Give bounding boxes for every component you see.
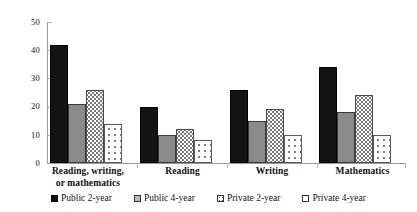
- bar: [373, 135, 391, 163]
- x-axis-label-group-0: Reading, writing, or mathematics: [38, 166, 138, 189]
- bar: [158, 135, 176, 163]
- x-axis-label-group-1: Reading: [135, 166, 230, 178]
- bar-group: [319, 22, 391, 163]
- x-axis-label-line: or mathematics: [38, 178, 138, 190]
- legend-item-private-2-year: Private 2-year: [217, 193, 281, 203]
- bar: [50, 45, 68, 163]
- legend-swatch-icon: [217, 195, 224, 202]
- bar-group: [230, 22, 302, 163]
- bar: [140, 107, 158, 163]
- y-tick-label-40: 40: [14, 45, 40, 55]
- bar: [176, 129, 194, 163]
- legend-label: Private 4-year: [312, 193, 366, 203]
- y-tick-label-30: 30: [14, 73, 40, 83]
- bar: [284, 135, 302, 163]
- y-tick-label-10: 10: [14, 130, 40, 140]
- x-axis-label-line: Mathematics: [315, 166, 410, 178]
- y-tick-label-50: 50: [14, 17, 40, 27]
- legend-swatch-icon: [51, 195, 58, 202]
- bar-group: [140, 22, 212, 163]
- y-tick-label-0: 0: [14, 158, 40, 168]
- x-axis-label-group-2: Writing: [226, 166, 318, 178]
- bar-chart: 50 40 30 20 10 0 Reading, writing, or ma…: [0, 0, 417, 212]
- bar: [248, 121, 266, 163]
- bar: [266, 109, 284, 163]
- plot-area: [47, 22, 405, 163]
- legend-item-public-4-year: Public 4-year: [134, 193, 195, 203]
- x-axis-label-line: Reading: [135, 166, 230, 178]
- bar: [355, 95, 373, 163]
- legend-item-public-2-year: Public 2-year: [51, 193, 112, 203]
- bar: [319, 67, 337, 163]
- y-tick-label-20: 20: [14, 101, 40, 111]
- x-axis-label-line: Writing: [226, 166, 318, 178]
- bar-group: [50, 22, 122, 163]
- legend-label: Public 4-year: [144, 193, 195, 203]
- x-axis-label-line: Reading, writing,: [38, 166, 138, 178]
- bar: [194, 140, 212, 163]
- bar: [68, 104, 86, 163]
- bar: [230, 90, 248, 163]
- legend-swatch-icon: [134, 195, 141, 202]
- legend-label: Private 2-year: [227, 193, 281, 203]
- legend-swatch-icon: [302, 195, 309, 202]
- legend-item-private-4-year: Private 4-year: [302, 193, 366, 203]
- chart-legend: Public 2-year Public 4-year Private 2-ye…: [0, 193, 417, 203]
- bar: [337, 112, 355, 163]
- bar: [86, 90, 104, 163]
- legend-label: Public 2-year: [61, 193, 112, 203]
- x-axis-label-group-3: Mathematics: [315, 166, 410, 178]
- bar: [104, 124, 122, 163]
